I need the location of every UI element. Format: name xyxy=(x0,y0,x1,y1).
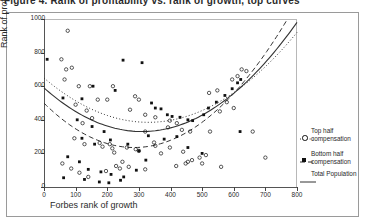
data-point-top-half xyxy=(144,113,147,116)
figure-title-strip: Figure 4. Rank of profitability vs. rank… xyxy=(0,0,366,11)
figure-root: Figure 4. Rank of profitability vs. rank… xyxy=(0,0,366,224)
data-point-bottom-half xyxy=(147,134,150,137)
x-tick-label: 700 xyxy=(250,192,280,199)
data-point-top-half xyxy=(175,121,178,124)
data-point-bottom-half xyxy=(150,102,153,105)
data-point-bottom-half xyxy=(91,125,94,128)
data-point-top-half xyxy=(114,164,117,167)
x-tick-label: 400 xyxy=(156,192,186,199)
data-point-bottom-half xyxy=(92,85,95,88)
y-tick-label: 0 xyxy=(5,183,45,190)
legend-label: Top half xyxy=(311,127,362,135)
data-point-bottom-half xyxy=(239,78,242,81)
data-point-top-half xyxy=(74,103,77,106)
legend-item-3[interactable]: Total Population xyxy=(300,170,362,178)
data-point-top-half xyxy=(111,147,114,150)
x-tick-label: 300 xyxy=(124,192,154,199)
data-point-bottom-half xyxy=(62,97,65,100)
data-point-bottom-half xyxy=(236,81,239,84)
trend-curve-top-half xyxy=(44,32,297,122)
data-point-top-half xyxy=(83,142,86,145)
legend-line-sample-solid xyxy=(300,171,316,177)
data-point-top-half xyxy=(240,68,243,71)
data-point-top-half xyxy=(87,175,90,178)
legend-line-sample-dashed xyxy=(300,151,316,157)
legend-item-1[interactable]: Top halfcompensation xyxy=(300,127,362,143)
legend-label: Bottom half xyxy=(311,150,362,158)
data-point-top-half xyxy=(144,168,147,171)
trend-curve-total-population xyxy=(44,22,297,131)
data-point-top-half xyxy=(198,156,201,159)
data-point-top-half xyxy=(264,156,267,159)
scatter-and-trend-layer xyxy=(44,19,297,187)
y-tick-label: 600 xyxy=(5,82,45,89)
data-point-bottom-half xyxy=(110,173,113,176)
legend-label-line2: compensation xyxy=(311,135,362,143)
data-point-top-half xyxy=(61,162,64,165)
data-point-top-half xyxy=(204,153,207,156)
data-point-top-half xyxy=(73,137,76,140)
data-point-bottom-half xyxy=(114,89,117,92)
data-point-top-half xyxy=(78,171,81,174)
legend-label-line2: compensation xyxy=(311,158,362,166)
legend-label: Total Population xyxy=(311,170,362,178)
x-axis-label: Forbes rank of growth xyxy=(50,200,138,210)
data-point-bottom-half xyxy=(66,155,69,158)
legend: Top halfcompensationBottom halfcompensat… xyxy=(300,120,362,181)
data-point-top-half xyxy=(113,151,116,154)
data-point-bottom-half xyxy=(107,181,110,184)
y-tick-label: 1000 xyxy=(5,15,45,22)
data-point-bottom-half xyxy=(81,97,84,100)
data-point-bottom-half xyxy=(81,137,84,140)
data-point-top-half xyxy=(208,130,211,133)
data-point-bottom-half xyxy=(160,107,163,110)
legend-line-sample-dotted xyxy=(300,128,316,134)
data-point-top-half xyxy=(174,164,177,167)
x-tick-label: 100 xyxy=(61,192,91,199)
data-point-top-half xyxy=(219,165,222,168)
data-point-top-half xyxy=(218,110,221,113)
data-point-bottom-half xyxy=(83,178,86,181)
legend-marker-filled-square xyxy=(302,158,306,162)
data-point-bottom-half xyxy=(201,152,204,155)
data-point-bottom-half xyxy=(186,118,189,121)
data-point-top-half xyxy=(108,142,111,145)
data-point-bottom-half xyxy=(144,159,147,162)
data-point-top-half xyxy=(190,158,193,161)
data-point-bottom-half xyxy=(78,160,81,163)
data-point-bottom-half xyxy=(46,58,49,61)
data-point-bottom-half xyxy=(175,135,178,138)
data-point-top-half xyxy=(106,98,109,101)
data-point-bottom-half xyxy=(223,94,226,97)
data-point-top-half xyxy=(133,95,136,98)
x-tick-label: 500 xyxy=(187,192,217,199)
data-point-bottom-half xyxy=(207,107,210,110)
data-point-bottom-half xyxy=(171,115,174,118)
x-tick-label: 800 xyxy=(282,192,312,199)
data-point-bottom-half xyxy=(239,130,242,133)
data-point-top-half xyxy=(70,167,73,170)
data-point-bottom-half xyxy=(87,168,90,171)
data-point-top-half xyxy=(60,58,63,61)
data-point-bottom-half xyxy=(166,113,169,116)
data-point-bottom-half xyxy=(62,176,65,179)
x-tick-label: 0 xyxy=(29,192,59,199)
data-point-bottom-half xyxy=(109,139,112,142)
data-point-top-half xyxy=(63,78,66,81)
y-axis-label: Rank of profitability xyxy=(0,0,9,48)
data-point-top-half xyxy=(81,121,84,124)
data-point-bottom-half xyxy=(231,87,234,90)
data-point-top-half xyxy=(85,109,88,112)
x-tick-label: 600 xyxy=(219,192,249,199)
data-point-bottom-half xyxy=(163,138,166,141)
x-tick-label: 200 xyxy=(92,192,122,199)
data-point-top-half xyxy=(77,85,80,88)
data-point-top-half xyxy=(137,98,140,101)
data-point-bottom-half xyxy=(202,113,205,116)
data-point-top-half xyxy=(70,66,73,69)
data-point-top-half xyxy=(181,150,184,153)
data-point-top-half xyxy=(128,108,131,111)
y-tick-label: 800 xyxy=(5,49,45,56)
legend-item-2[interactable]: Bottom halfcompensation xyxy=(300,150,362,166)
data-point-top-half xyxy=(154,116,157,119)
